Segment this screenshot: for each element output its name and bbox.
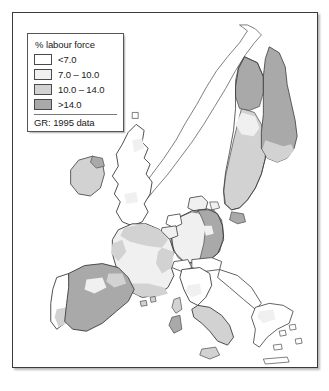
region-balearics — [140, 296, 156, 306]
region-sardinia — [169, 315, 182, 333]
legend-item: 10.0 – 14.0 — [34, 83, 117, 97]
legend-title: % labour force — [35, 39, 117, 50]
legend-swatch-7-10 — [34, 69, 52, 80]
legend-item: 7.0 – 10.0 — [34, 68, 117, 82]
region-baltic-tip — [230, 212, 246, 224]
region-spain — [65, 264, 135, 332]
map-legend: % labour force <7.0 7.0 – 10.0 10.0 – 14… — [27, 33, 124, 132]
region-denmark-isles — [210, 202, 220, 210]
region-scotland-isles — [132, 112, 138, 118]
region-corsica — [172, 297, 182, 313]
region-sweden-north — [236, 57, 264, 111]
region-great-britain — [112, 124, 152, 225]
legend-label-7-10: 7.0 – 10.0 — [58, 69, 99, 80]
legend-item: >14.0 — [34, 98, 117, 112]
legend-swatch-under-7 — [34, 54, 52, 65]
legend-footnote: GR: 1995 data — [34, 114, 117, 129]
region-adriatic-coast — [218, 270, 262, 310]
region-italy-south — [192, 305, 234, 345]
legend-label-10-14: 10.0 – 14.0 — [58, 84, 104, 95]
legend-swatch-over-14 — [34, 99, 52, 110]
legend-label-under-7: <7.0 — [58, 54, 76, 65]
region-sicily — [200, 347, 220, 359]
legend-label-over-14: >14.0 — [58, 99, 82, 110]
figure-container: % labour force <7.0 7.0 – 10.0 10.0 – 14… — [0, 0, 329, 391]
legend-swatch-10-14 — [34, 84, 52, 95]
region-crete — [263, 357, 289, 364]
map-frame: % labour force <7.0 7.0 – 10.0 10.0 – 14… — [12, 12, 318, 368]
legend-item: <7.0 — [34, 53, 117, 67]
